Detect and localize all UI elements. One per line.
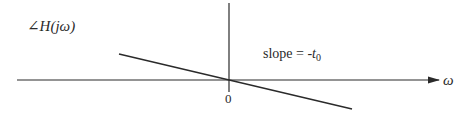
slope-prefix: slope = -: [263, 46, 312, 61]
slope-annotation: slope = -t0: [263, 47, 321, 63]
angle-symbol: ∠: [27, 18, 40, 34]
x-axis-label: ω: [443, 73, 454, 88]
y-axis-label: ∠H(jω): [27, 19, 75, 34]
slope-subscript: 0: [316, 52, 321, 63]
y-axis-label-text: H(jω): [40, 18, 76, 34]
origin-label: 0: [225, 92, 232, 105]
